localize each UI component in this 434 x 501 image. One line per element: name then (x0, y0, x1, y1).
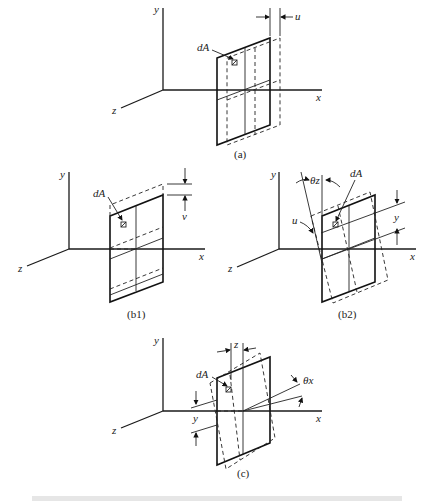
x-axis-label: x (409, 250, 415, 262)
dA-label: dA (197, 41, 210, 53)
dA-label: dA (196, 368, 209, 380)
panel-b1-caption: (b1) (127, 308, 146, 321)
x-axis-label: x (315, 412, 321, 424)
panel-b2: y x z θz dA u y (b2) (227, 167, 416, 321)
y-axis-label: y (59, 168, 65, 180)
z-axis-label: z (17, 262, 23, 274)
z-axis-label: z (227, 262, 233, 274)
figure-canvas: y x z dA u (a) y x z (0, 0, 434, 501)
dA-label: dA (93, 187, 106, 199)
panel-b1: y x z dA v (b1) (17, 168, 205, 321)
dA-label: dA (350, 167, 363, 179)
panel-b2-caption: (b2) (338, 308, 357, 321)
theta-z-label: θz (310, 174, 320, 186)
y-axis-label: y (153, 3, 159, 15)
panel-a: y x z dA u (a) (111, 3, 322, 161)
z-axis-label: z (111, 424, 117, 436)
panel-c-caption: (c) (237, 467, 250, 480)
y-distance-label: y (192, 412, 198, 424)
z-distance-label: z (233, 338, 239, 350)
u-label: u (292, 214, 298, 226)
y-axis-label: y (270, 168, 276, 180)
v-label: v (182, 210, 187, 222)
y-distance-label: y (393, 211, 399, 223)
theta-x-label: θx (303, 374, 313, 386)
plate-original (217, 38, 270, 145)
panel-a-caption: (a) (234, 148, 247, 161)
u-label: u (295, 10, 301, 22)
z-axis (121, 90, 163, 108)
y-axis-label: y (153, 334, 159, 346)
z-axis-label: z (111, 104, 117, 116)
x-axis-label: x (315, 91, 321, 103)
plate-displaced (227, 38, 280, 145)
x-axis-label: x (198, 250, 204, 262)
panel-c: y x z z dA θx y (c) (111, 334, 322, 480)
figure-caption-cropped (32, 496, 402, 501)
